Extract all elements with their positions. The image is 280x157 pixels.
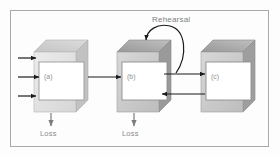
loss-label-b: Loss: [122, 129, 139, 138]
box-c: [201, 40, 255, 112]
figure-canvas: Rehearsal Loss Loss (a) (b) (c): [0, 0, 280, 157]
rehearsal-label: Rehearsal: [152, 15, 190, 24]
box-c-label: (c): [211, 73, 219, 80]
loss-label-a: Loss: [40, 129, 57, 138]
box-a-label: (a): [44, 73, 53, 80]
box-b-label: (b): [127, 73, 136, 80]
box-b: [117, 40, 171, 112]
box-a: [34, 40, 88, 112]
